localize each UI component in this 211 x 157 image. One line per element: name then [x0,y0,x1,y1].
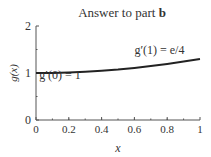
x-tick-label: 0.8 [160,123,174,135]
y-tick-label: 1 [25,66,31,80]
annotation-g-prime-0: g′(0) = 1 [39,68,80,82]
chart: Answer to part b 00.20.40.60.81012 g′(0)… [0,0,211,157]
y-tick-label: 2 [25,19,31,33]
x-tick-label: 0.4 [95,123,109,135]
x-tick-label: 0.2 [62,123,76,135]
y-tick-label: 0 [25,113,31,127]
x-tick-label: 0.6 [128,123,142,135]
y-axis-label: g(x) [7,64,20,82]
x-tick-label: 0 [33,123,39,135]
annotation-g-prime-1: g′(1) = e/4 [134,43,184,57]
x-tick-label: 1 [197,123,203,135]
x-axis-label: x [114,141,121,155]
chart-title: Answer to part b [78,5,166,20]
